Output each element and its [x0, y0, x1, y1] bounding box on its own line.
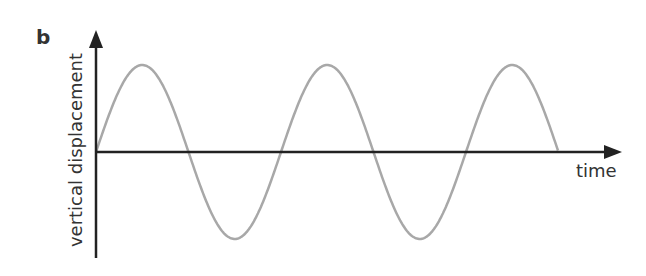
panel-label: b — [36, 25, 50, 49]
wave-diagram: b vertical displacement time — [0, 0, 646, 276]
x-axis-arrow-icon — [604, 145, 622, 159]
y-axis-label: vertical displacement — [65, 53, 86, 247]
y-axis-label-group: vertical displacement — [65, 53, 86, 247]
y-axis-arrow-icon — [89, 30, 103, 48]
x-axis-label: time — [576, 160, 617, 181]
